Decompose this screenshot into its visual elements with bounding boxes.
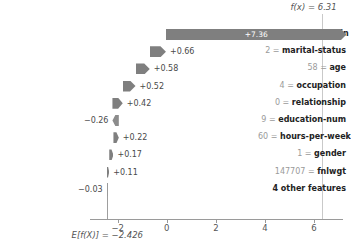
feature-equals: = [305, 167, 317, 176]
waterfall-row: 4 = occupation+0.52 [0, 78, 346, 95]
waterfall-row: 58 = age+0.58 [0, 60, 346, 77]
feature-equals: = [302, 149, 314, 158]
feature-label: 1 = gender [258, 148, 346, 160]
feature-equals: = [270, 46, 282, 55]
feature-label: 58 = age [258, 62, 346, 74]
contribution-value-label: +0.11 [113, 167, 138, 178]
contribution-value-label: +0.66 [170, 46, 195, 57]
feature-value: 60 [258, 132, 268, 141]
feature-name: hours-per-week [280, 132, 351, 141]
x-axis-tick-label: 4 [262, 223, 267, 233]
feature-value: 58 [307, 63, 317, 72]
feature-name: occupation [296, 81, 346, 90]
feature-name: 4 other features [273, 184, 346, 193]
contribution-bar [113, 132, 118, 143]
contribution-value-label: +7.36 [245, 29, 268, 40]
contribution-bar [107, 167, 110, 178]
feature-equals: = [318, 63, 330, 72]
feature-equals: = [285, 81, 297, 90]
x-axis-tick-label: 0 [164, 223, 169, 233]
contribution-value-label: +0.22 [123, 132, 148, 143]
feature-label: 4 other features [258, 183, 346, 195]
feature-name: marital-status [282, 46, 346, 55]
feature-label: 2 = marital-status [258, 45, 346, 57]
x-axis-tick-label: 6 [311, 223, 316, 233]
feature-label: 9 = education-num [258, 114, 346, 126]
feature-label: 4 = occupation [258, 80, 346, 92]
feature-name: gender [314, 149, 346, 158]
feature-value: 147707 [275, 167, 306, 176]
feature-equals: = [268, 132, 280, 141]
waterfall-row: 2 = marital-status+0.66 [0, 43, 346, 60]
bar-marker [107, 183, 108, 196]
contribution-value-label: +0.17 [117, 149, 142, 160]
contribution-value-label: −0.03 [78, 184, 103, 195]
feature-label: 60 = hours-per-week [258, 131, 346, 143]
waterfall-row: 147707 = fnlwgt+0.11 [0, 164, 346, 181]
feature-equals: = [280, 98, 292, 107]
feature-label: 0 = relationship [258, 97, 346, 109]
contribution-bar [150, 46, 166, 57]
base-value-line [107, 196, 108, 219]
contribution-value-label: +0.42 [127, 98, 152, 109]
feature-equals: = [266, 115, 278, 124]
output-value-label: f(x) = 6.31 [291, 2, 337, 12]
contribution-value-label: +0.52 [140, 81, 165, 92]
base-value-label: E[f(X)] = −2.426 [72, 230, 143, 240]
contribution-bar [112, 115, 118, 126]
contribution-bar [123, 81, 136, 92]
contribution-value-label: −0.26 [84, 115, 109, 126]
waterfall-row: 60 = hours-per-week+0.22 [0, 129, 346, 146]
contribution-bar [109, 149, 113, 160]
waterfall-row: 4 other features−0.03 [0, 181, 346, 198]
waterfall-row: 1 = gender+0.17 [0, 146, 346, 163]
feature-name: fnlwgt [317, 167, 346, 176]
feature-label: 147707 = fnlwgt [258, 166, 346, 178]
feature-name: relationship [292, 98, 346, 107]
feature-name: education-num [278, 115, 346, 124]
contribution-value-label: +0.58 [154, 63, 179, 74]
waterfall-row: 9 = education-num−0.26 [0, 112, 346, 129]
x-axis-tick-label: 2 [213, 223, 218, 233]
contribution-bar [112, 98, 122, 109]
waterfall-row: 15024 = capital-gain+7.36 [0, 26, 346, 43]
contribution-bar [136, 63, 150, 74]
feature-name: age [329, 63, 346, 72]
waterfall-row: 0 = relationship+0.42 [0, 95, 346, 112]
